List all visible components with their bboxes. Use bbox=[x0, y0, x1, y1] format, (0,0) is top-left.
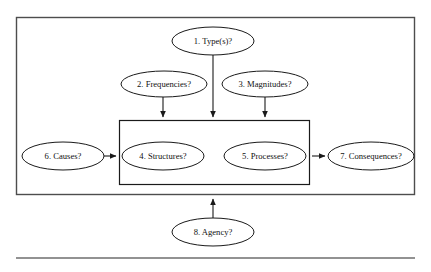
node-frequencies: 2. Frequencies? bbox=[121, 71, 207, 97]
node-consequences: 7. Consequences? bbox=[328, 142, 414, 170]
node-type: 1. Type(s)? bbox=[172, 27, 254, 55]
node-type-label: 1. Type(s)? bbox=[194, 36, 233, 46]
node-magnitudes: 3. Magnitudes? bbox=[222, 71, 308, 97]
node-structures-label: 4. Structures? bbox=[139, 151, 186, 161]
node-structures: 4. Structures? bbox=[122, 142, 204, 170]
node-frequencies-label: 2. Frequencies? bbox=[137, 79, 191, 89]
node-magnitudes-label: 3. Magnitudes? bbox=[239, 79, 292, 89]
node-consequences-label: 7. Consequences? bbox=[340, 151, 402, 161]
diagram-root: 1. Type(s)? 2. Frequencies? 3. Magnitude… bbox=[0, 0, 431, 272]
node-agency-label: 8. Agency? bbox=[194, 227, 233, 237]
node-processes-label: 5. Processes? bbox=[242, 151, 288, 161]
node-causes-label: 6. Causes? bbox=[45, 151, 82, 161]
node-causes: 6. Causes? bbox=[22, 142, 104, 170]
framework-diagram: 1. Type(s)? 2. Frequencies? 3. Magnitude… bbox=[0, 0, 431, 272]
node-processes: 5. Processes? bbox=[224, 142, 306, 170]
node-agency: 8. Agency? bbox=[172, 218, 254, 246]
